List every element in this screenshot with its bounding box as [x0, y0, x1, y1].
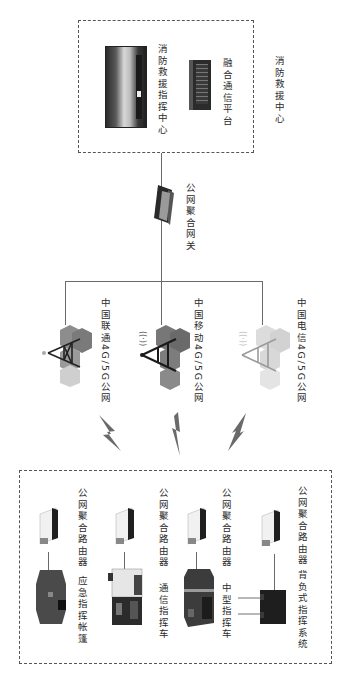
router-link	[274, 554, 275, 592]
unicom-tower-icon	[40, 325, 92, 385]
gateway-device-icon	[150, 185, 176, 225]
command-center-label: 消防救援指挥中心	[157, 44, 167, 136]
signal-waves-icon: ((·))	[138, 331, 146, 346]
comm-vehicle-icon	[108, 569, 146, 625]
fusion-platform-label: 融合通信平台	[222, 58, 232, 127]
fire-rescue-center-label: 消防救援中心	[274, 56, 284, 125]
wireless-link-icon	[97, 413, 123, 453]
network-bus	[65, 281, 263, 282]
tent-label: 应急指挥帐篷	[77, 576, 87, 645]
router-link	[196, 552, 197, 570]
command-vehicle-label: 中型指挥车	[221, 583, 231, 641]
router-icon	[258, 510, 282, 554]
tent-icon	[34, 570, 68, 624]
wireless-link-icon	[226, 413, 248, 453]
router-icon	[112, 508, 136, 552]
unicom-drop	[65, 281, 66, 325]
field-terminals-group	[19, 470, 332, 664]
unicom-label: 中国联通4G/5G公网	[100, 298, 110, 405]
router-link	[124, 552, 125, 570]
backpack-system-label: 背负式指挥系统	[297, 570, 307, 651]
gateway-label: 公网聚合网关	[185, 183, 195, 252]
router-icon	[184, 508, 208, 552]
server-rack-icon	[189, 60, 211, 110]
mobile-label: 中国移动4G/5G公网	[193, 298, 203, 405]
command-center-photo-icon	[105, 46, 147, 128]
signal-waves-icon: ((·))	[238, 331, 246, 346]
command-vehicle-router-label: 公网聚合路由器	[221, 488, 231, 569]
comm-vehicle-label: 通信指挥车	[158, 583, 168, 641]
backpack-system-icon	[238, 590, 288, 626]
telecom-drop	[262, 281, 263, 325]
backpack-router-label: 公网聚合路由器	[297, 486, 307, 567]
comm-vehicle-router-label: 公网聚合路由器	[158, 488, 168, 569]
router-link	[48, 552, 49, 570]
router-icon	[36, 508, 60, 552]
telecom-label: 中国电信4G/5G公网	[296, 298, 306, 405]
command-vehicle-icon	[180, 569, 218, 627]
wireless-link-icon	[170, 412, 184, 456]
tent-router-label: 公网聚合路由器	[77, 488, 87, 569]
mobile-drop	[161, 281, 162, 325]
